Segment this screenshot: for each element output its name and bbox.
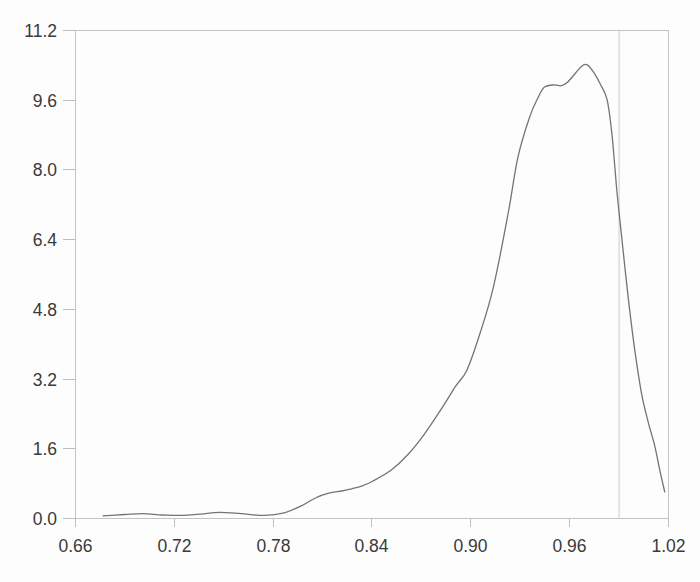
- x-tick-label: 0.72: [157, 536, 191, 556]
- y-tick-label: 0.0: [33, 509, 58, 529]
- y-tick-label: 3.2: [33, 370, 57, 390]
- x-tick-label: 0.90: [453, 536, 487, 556]
- plot-background: [0, 0, 700, 582]
- density-plot-page: 0.01.63.24.86.48.09.611.20.660.720.780.8…: [0, 0, 700, 582]
- y-tick-label: 9.6: [33, 91, 57, 111]
- y-tick-label: 11.2: [24, 21, 57, 41]
- x-tick-label: 0.66: [58, 536, 92, 556]
- y-tick-label: 8.0: [33, 160, 58, 180]
- x-tick-label: 0.96: [552, 536, 586, 556]
- y-tick-label: 6.4: [33, 230, 58, 250]
- y-tick-label: 4.8: [33, 300, 57, 320]
- density-plot: 0.01.63.24.86.48.09.611.20.660.720.780.8…: [0, 0, 700, 582]
- x-tick-label: 0.84: [354, 536, 388, 556]
- x-tick-label: 1.02: [651, 536, 685, 556]
- y-tick-label: 1.6: [33, 439, 57, 459]
- x-tick-label: 0.78: [256, 536, 290, 556]
